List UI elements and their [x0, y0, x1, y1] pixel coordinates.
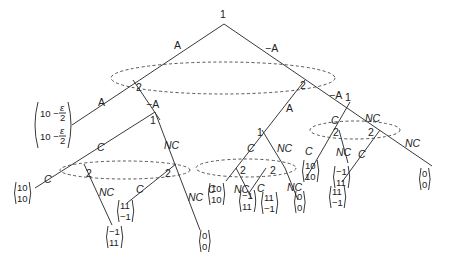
paren-right: [132, 200, 134, 222]
payoff-player2: 0: [297, 202, 302, 213]
action-l2b-NC: NC: [188, 191, 204, 203]
action-rightp1-C: C: [331, 114, 339, 126]
paren-right: [348, 166, 350, 188]
edge-right-A: [226, 80, 305, 181]
paren-left: [200, 230, 202, 252]
edge-leftp1-C: [35, 112, 155, 188]
paren-left: [35, 102, 38, 148]
paren-left: [118, 200, 120, 222]
eps-top-prefix: 10 −: [40, 108, 59, 119]
paren-right: [209, 230, 211, 252]
edge-leftp1-NC: [155, 112, 200, 230]
payoff-player1: 0: [297, 191, 302, 202]
payoff-player1: 0: [202, 230, 207, 241]
action-leftp1-NC: NC: [164, 139, 180, 151]
payoff-player2: 0: [422, 179, 427, 190]
action-l2a-C: C: [44, 173, 52, 185]
action-rightp1-NC: NC: [365, 112, 381, 124]
action-l2b-C: C: [136, 183, 144, 195]
payoff-player1: −1: [336, 166, 347, 177]
payoff-player1: 10: [17, 182, 28, 193]
payoff-player1: −1: [109, 226, 120, 237]
action-l2a-NC: NC: [99, 186, 115, 198]
action-r2a-C: C: [305, 145, 313, 157]
paren-right: [344, 186, 346, 208]
payoff-player2: 10: [17, 193, 28, 204]
node-right-p2-label: 2: [300, 79, 306, 91]
paren-left: [303, 160, 305, 182]
paren-left: [330, 186, 332, 208]
node-l2b-label: 2: [165, 167, 171, 179]
payoff-mid-ncc: 11−1: [262, 192, 278, 214]
action-r2b-NC: NC: [405, 137, 421, 149]
payoff-left-cc: 1010: [15, 182, 31, 204]
paren-right: [68, 102, 71, 148]
game-tree: 1 2 2 1 1 1 2 2 2 2 2 2 A −A A −A −A A C…: [0, 0, 449, 263]
action-left-A: A: [98, 96, 105, 108]
payoff-right-ncnc: 00: [420, 168, 431, 190]
payoff-right-cnc: −111: [334, 166, 350, 188]
node-right-p1-label: 1: [345, 91, 351, 103]
payoff-vectors: 1010−11111−1001010−11111−1001010−11111−1…: [15, 160, 431, 252]
payoff-player2: −1: [264, 203, 275, 214]
payoff-mid-ncnc: 00: [295, 191, 306, 213]
paren-left: [420, 168, 422, 190]
payoff-left-ncc: 11−1: [118, 200, 134, 222]
paren-left: [262, 192, 264, 214]
paren-right: [276, 192, 278, 214]
payoff-right-ncc: 11−1: [330, 186, 346, 208]
payoff-player1: −1: [242, 190, 253, 201]
payoff-mid-cc: 1010: [209, 183, 225, 205]
action-midp1-C: C: [247, 142, 255, 154]
payoff-player2: 0: [202, 241, 207, 252]
action-left-notA: −A: [146, 98, 159, 110]
node-l2a-label: 2: [86, 167, 92, 179]
node-r2a-label: 2: [333, 126, 339, 138]
info-set-right: [310, 121, 400, 139]
payoff-player2: 10: [211, 194, 222, 205]
payoff-player2: 11: [109, 237, 119, 248]
paren-right: [304, 191, 306, 213]
paren-left: [334, 166, 336, 188]
payoff-player1: 11: [264, 192, 274, 203]
paren-left: [107, 226, 109, 248]
payoff-left-ncnc: 00: [200, 230, 211, 252]
node-m2a-label: 2: [240, 164, 246, 176]
paren-right: [121, 226, 123, 248]
paren-right: [429, 168, 431, 190]
action-right-A: A: [286, 102, 293, 114]
node-left-p2-label: 2: [136, 81, 142, 93]
payoff-player2: −1: [332, 197, 343, 208]
payoff-player2: 11: [242, 201, 252, 212]
paren-right: [317, 160, 319, 182]
node-m2b-label: 2: [270, 164, 276, 176]
paren-right: [29, 182, 31, 204]
payoff-eps: 10 − ε 2 10 − ε 2: [35, 102, 71, 148]
node-mid-p1-label: 1: [257, 126, 263, 138]
payoff-right-cc: 1010: [303, 160, 319, 182]
paren-right: [254, 190, 256, 212]
node-r2b-label: 2: [368, 126, 374, 138]
payoff-player1: 0: [422, 168, 427, 179]
eps-top-den: 2: [60, 112, 65, 123]
action-root-notA: −A: [265, 42, 278, 54]
action-leftp1-C: C: [97, 141, 105, 153]
payoff-player1: 11: [332, 186, 342, 197]
payoff-player2: 10: [305, 171, 316, 182]
action-right-notA: −A: [329, 89, 342, 101]
action-root-A: A: [174, 39, 181, 51]
eps-bot-prefix: 10 −: [40, 131, 59, 142]
eps-bot-den: 2: [60, 135, 65, 146]
node-root-label: 1: [220, 8, 226, 20]
edge-root-notA: [224, 24, 432, 166]
node-left-p1-label: 1: [150, 114, 156, 126]
payoff-player1: 11: [120, 200, 130, 211]
payoff-player2: −1: [120, 211, 131, 222]
payoff-mid-cnc: −111: [240, 190, 256, 212]
action-midp1-NC: NC: [277, 142, 293, 154]
action-r2a-NC: NC: [336, 146, 352, 158]
payoff-left-cnc: −111: [107, 226, 123, 248]
payoff-player1: 10: [211, 183, 222, 194]
paren-right: [223, 183, 225, 205]
action-r2b-C: C: [358, 148, 366, 160]
